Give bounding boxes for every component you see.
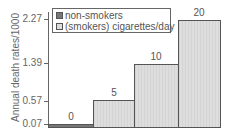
bar-value-label: 10 (136, 52, 176, 62)
legend: non-smokers (smokers) cigarettes/day (52, 8, 171, 33)
bar-20-cigarettes (178, 20, 221, 128)
y-axis-line (48, 12, 49, 128)
bar-10-cigarettes (134, 64, 179, 128)
y-tick-label: 1.39 (23, 58, 42, 68)
y-tick-2-27 (44, 19, 48, 20)
y-tick-label: 0.07 (23, 119, 42, 129)
bar-non-smokers (48, 124, 94, 128)
legend-item-smokers: (smokers) cigarettes/day (56, 21, 174, 32)
legend-item-non-smokers: non-smokers (56, 10, 123, 21)
legend-label: non-smokers (65, 10, 123, 21)
y-tick-label: 2.27 (23, 14, 42, 24)
y-tick-1-39 (44, 63, 48, 64)
bar-5-cigarettes (93, 100, 135, 128)
y-tick-label: 0.57 (23, 96, 42, 106)
legend-label: (smokers) cigarettes/day (65, 21, 174, 32)
y-tick-0-57 (44, 101, 48, 102)
legend-swatch-dark (56, 12, 63, 19)
bar-value-label: 0 (51, 112, 91, 122)
bar-value-label: 20 (179, 8, 219, 18)
y-axis-label: Annual death rates/1000 (10, 13, 21, 123)
legend-swatch-light (56, 23, 63, 30)
bar-value-label: 5 (94, 88, 134, 98)
